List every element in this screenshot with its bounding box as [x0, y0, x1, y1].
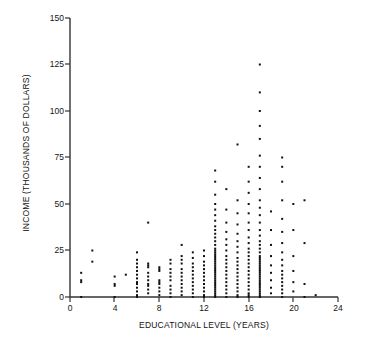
- data-point: [259, 287, 261, 289]
- data-point: [292, 270, 294, 272]
- data-point: [259, 274, 261, 276]
- data-point: [181, 244, 183, 246]
- data-point: [248, 274, 250, 276]
- data-point: [259, 294, 261, 296]
- data-point: [281, 166, 283, 168]
- data-point: [214, 203, 216, 205]
- data-point: [214, 281, 216, 283]
- data-point: [270, 279, 272, 281]
- data-point: [237, 268, 239, 270]
- data-point: [203, 268, 205, 270]
- data-point: [147, 289, 149, 291]
- data-point: [237, 290, 239, 292]
- data-point: [170, 272, 172, 274]
- data-point: [214, 270, 216, 272]
- data-point: [192, 270, 194, 272]
- data-point: [214, 276, 216, 278]
- data-point: [248, 222, 250, 224]
- data-point: [248, 181, 250, 183]
- data-point: [158, 268, 160, 270]
- data-point: [248, 294, 250, 296]
- data-point: [281, 264, 283, 266]
- data-point: [248, 270, 250, 272]
- data-point: [259, 292, 261, 294]
- data-point: [214, 194, 216, 196]
- data-point: [281, 242, 283, 244]
- data-point: [259, 251, 261, 253]
- data-point: [237, 279, 239, 281]
- plot-canvas: [0, 0, 367, 344]
- data-point: [259, 138, 261, 140]
- data-point: [136, 281, 138, 283]
- data-point: [237, 264, 239, 266]
- data-point: [225, 289, 227, 291]
- data-point: [281, 277, 283, 279]
- data-point: [292, 255, 294, 257]
- data-point: [270, 229, 272, 231]
- data-point: [192, 292, 194, 294]
- data-point: [136, 266, 138, 268]
- data-point: [214, 251, 216, 253]
- data-point: [214, 279, 216, 281]
- data-point: [259, 155, 261, 157]
- data-point: [214, 244, 216, 246]
- data-point: [136, 270, 138, 272]
- data-point: [237, 240, 239, 242]
- data-point: [170, 285, 172, 287]
- data-point: [147, 292, 149, 294]
- data-point: [170, 279, 172, 281]
- data-point: [225, 231, 227, 233]
- data-point: [270, 292, 272, 294]
- data-point: [281, 289, 283, 291]
- data-point: [237, 199, 239, 201]
- data-point: [136, 263, 138, 265]
- data-point: [259, 285, 261, 287]
- data-point: [248, 263, 250, 265]
- data-point: [259, 259, 261, 261]
- data-point: [214, 240, 216, 242]
- data-point: [203, 287, 205, 289]
- data-point: [259, 199, 261, 201]
- data-point: [181, 287, 183, 289]
- data-point: [136, 283, 138, 285]
- data-point: [203, 290, 205, 292]
- data-point: [158, 279, 160, 281]
- data-point: [181, 255, 183, 257]
- data-point: [259, 214, 261, 216]
- data-point: [259, 276, 261, 278]
- data-point: [237, 283, 239, 285]
- data-point: [136, 287, 138, 289]
- data-point: [214, 274, 216, 276]
- data-point: [214, 283, 216, 285]
- data-point: [281, 231, 283, 233]
- data-point: [214, 253, 216, 255]
- data-point: [281, 199, 283, 201]
- data-point: [259, 64, 261, 66]
- data-point: [125, 274, 127, 276]
- data-point: [281, 251, 283, 253]
- data-point: [237, 294, 239, 296]
- data-point: [259, 244, 261, 246]
- data-point: [259, 257, 261, 259]
- data-point: [181, 259, 183, 261]
- data-point: [203, 276, 205, 278]
- data-point: [248, 251, 250, 253]
- data-point: [225, 266, 227, 268]
- data-point: [259, 264, 261, 266]
- data-point: [147, 222, 149, 224]
- data-point: [214, 266, 216, 268]
- data-point: [281, 274, 283, 276]
- data-point: [170, 263, 172, 265]
- data-point: [248, 259, 250, 261]
- data-point: [214, 272, 216, 274]
- data-point: [203, 279, 205, 281]
- data-point: [237, 272, 239, 274]
- data-point: [181, 276, 183, 278]
- data-point: [181, 279, 183, 281]
- data-point: [192, 289, 194, 291]
- data-point: [237, 223, 239, 225]
- data-point: [225, 296, 227, 298]
- data-point: [259, 235, 261, 237]
- data-point: [214, 290, 216, 292]
- data-point: [181, 263, 183, 265]
